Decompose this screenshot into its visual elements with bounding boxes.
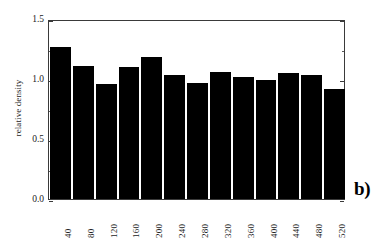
bar xyxy=(164,75,185,199)
panel-letter-label: b) xyxy=(354,178,370,200)
bar xyxy=(301,75,322,199)
plot-area xyxy=(48,20,345,200)
figure-panel-b: relative density 0.00.51.01.5 4080120160… xyxy=(0,0,391,243)
x-axis-tick-label: 360 xyxy=(246,224,256,238)
bar-series xyxy=(49,21,344,199)
bar xyxy=(50,47,71,199)
x-axis-tick-label: 80 xyxy=(86,229,96,238)
bar xyxy=(233,77,254,199)
x-axis-tick-label: 520 xyxy=(337,224,347,238)
bar xyxy=(210,72,231,199)
x-axis-tick-label: 120 xyxy=(109,224,119,238)
x-axis-tick-label: 240 xyxy=(177,224,187,238)
y-axis-tick-label: 0.5 xyxy=(20,135,44,145)
y-axis-tick-label-group: 0.00.51.01.5 xyxy=(18,0,44,243)
bar xyxy=(278,73,299,199)
x-axis-tick-label: 480 xyxy=(314,224,324,238)
bar xyxy=(324,89,345,199)
x-axis-tick-label: 200 xyxy=(154,224,164,238)
bar xyxy=(119,67,140,199)
bar xyxy=(256,80,277,199)
x-axis-tick-label: 440 xyxy=(291,224,301,238)
x-axis-tick-label: 280 xyxy=(200,224,210,238)
x-axis-tick-label: 320 xyxy=(223,224,233,238)
x-axis-tick-label: 40 xyxy=(63,229,73,238)
x-axis-tick-label-group: 4080120160200240280320360400440480520 xyxy=(48,200,345,243)
y-axis-tick-label: 1.5 xyxy=(20,15,44,25)
y-axis-tick-label: 0.0 xyxy=(20,195,44,205)
y-axis-tick-label: 1.0 xyxy=(20,75,44,85)
bar xyxy=(73,66,94,199)
x-axis-tick-label: 160 xyxy=(131,224,141,238)
x-axis-tick-label: 400 xyxy=(269,224,279,238)
bar xyxy=(187,83,208,199)
bar xyxy=(96,84,117,199)
bar xyxy=(141,57,162,199)
